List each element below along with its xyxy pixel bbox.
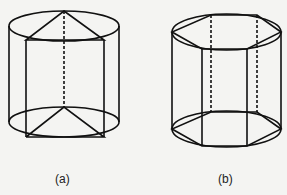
figure-a-label: (a) <box>55 172 70 186</box>
figure-b-label: (b) <box>218 172 233 186</box>
figure-a-bottom-triangle <box>26 107 104 137</box>
figure-a-top-triangle <box>26 11 104 40</box>
figure-b-bottom-hexagon <box>172 112 281 146</box>
figure-b-cylinder-hexagonal-prism <box>172 14 281 147</box>
figure-b-top-ellipse <box>172 14 281 50</box>
figure-a-cylinder-triangular-prism <box>9 11 119 137</box>
figure-b-top-hexagon <box>172 15 281 49</box>
diagram-canvas <box>0 0 287 195</box>
figure-b-bottom-ellipse <box>172 111 281 147</box>
